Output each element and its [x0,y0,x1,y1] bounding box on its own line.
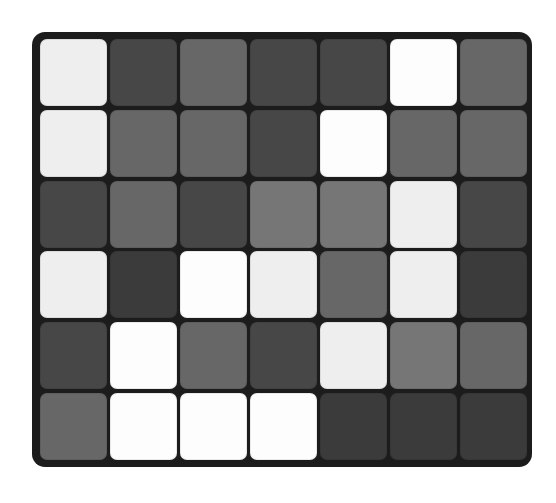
grid-cell[interactable] [40,39,107,106]
grid-cell[interactable] [320,110,387,177]
grid-cell[interactable] [40,251,107,318]
grid-cell[interactable] [390,39,457,106]
grid-cell[interactable] [320,251,387,318]
grid-cell[interactable] [460,181,527,248]
grid-cell[interactable] [110,110,177,177]
grid-cell[interactable] [250,393,317,460]
grid-cell[interactable] [460,110,527,177]
grid-cell[interactable] [460,39,527,106]
grid-cell[interactable] [460,393,527,460]
grid-cell[interactable] [110,393,177,460]
grid-cell[interactable] [110,181,177,248]
grid-cell[interactable] [250,251,317,318]
grid-cell[interactable] [40,110,107,177]
grid-cell[interactable] [460,322,527,389]
grid-cell[interactable] [110,39,177,106]
grid-cell[interactable] [250,181,317,248]
grid-cell[interactable] [390,181,457,248]
grid-cell[interactable] [320,393,387,460]
grid-cell[interactable] [390,322,457,389]
grid-cell[interactable] [180,393,247,460]
grid-cell[interactable] [390,251,457,318]
grid-cell[interactable] [250,39,317,106]
grid-cell[interactable] [320,39,387,106]
grid-cell[interactable] [180,322,247,389]
grid-cell[interactable] [320,181,387,248]
grid-cell[interactable] [110,322,177,389]
grid-cell[interactable] [250,110,317,177]
grid-cell[interactable] [180,181,247,248]
game-board [32,32,532,467]
grid-cell[interactable] [180,110,247,177]
grid-cell[interactable] [180,39,247,106]
grid-cell[interactable] [390,110,457,177]
grid-cell[interactable] [390,393,457,460]
grid-cell[interactable] [460,251,527,318]
grid-cell[interactable] [320,322,387,389]
grid-cell[interactable] [40,322,107,389]
grid-cell[interactable] [250,322,317,389]
grid-cell[interactable] [40,393,107,460]
grid-cell[interactable] [110,251,177,318]
grid-cell[interactable] [180,251,247,318]
grid-cell[interactable] [40,181,107,248]
